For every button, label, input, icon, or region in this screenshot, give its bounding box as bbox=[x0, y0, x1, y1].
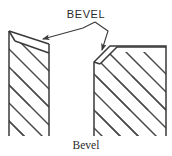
bevel-illustration: BEVEL Bevel bbox=[0, 0, 172, 156]
figure-caption: Bevel bbox=[73, 139, 100, 151]
callout-leaders bbox=[43, 22, 108, 50]
shape-beveled-edge-left bbox=[0, 31, 84, 156]
leader-to-right-bevel bbox=[95, 22, 108, 50]
leader-to-left-bevel bbox=[43, 22, 95, 39]
bevel-figure: BEVEL Bevel bbox=[0, 0, 172, 156]
callout-label-bevel: BEVEL bbox=[67, 8, 105, 20]
